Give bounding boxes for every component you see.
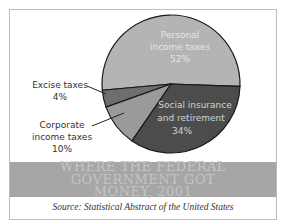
slice-label: Personal bbox=[161, 30, 199, 40]
chart-title: WHERE THE FEDERAL GOVERNMENT GOT MONEY, … bbox=[10, 161, 276, 199]
slice-value-label: 34% bbox=[172, 126, 192, 136]
slice-label: income taxes bbox=[150, 42, 210, 52]
slice-label: and retirement bbox=[157, 113, 225, 123]
slice-value-label: 4% bbox=[53, 92, 68, 102]
pie-slice bbox=[102, 15, 240, 90]
source-caption: Source: Statistical Abstract of the Unit… bbox=[10, 202, 276, 212]
slice-value-label: 10% bbox=[52, 144, 72, 154]
slice-label: Excise taxes bbox=[32, 80, 88, 90]
slice-label: Social insurance bbox=[158, 100, 232, 110]
slice-label: income taxes bbox=[32, 132, 92, 142]
slice-value-label: 52% bbox=[170, 54, 190, 64]
slice-label: Corporate bbox=[40, 120, 85, 130]
chart-title-line-3: MONEY, 2001 bbox=[10, 186, 276, 199]
